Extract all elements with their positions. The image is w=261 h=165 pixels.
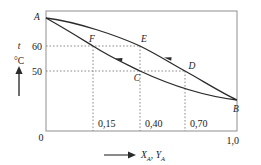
x-axis-caption-sep: , — [151, 150, 153, 160]
x-tick-label-015: 0,15 — [98, 118, 116, 129]
phase-diagram-figure: A B C D E F 60 50 0 0,15 0,40 0,70 1,0 t… — [0, 0, 261, 165]
point-label-E: E — [140, 34, 147, 44]
point-label-B: B — [233, 104, 239, 114]
y-tick-label-50: 50 — [32, 66, 42, 77]
origin-label: 0 — [39, 132, 44, 143]
arrow-right-icon — [104, 151, 136, 158]
x-axis-caption: XA,YA — [140, 150, 165, 162]
y-axis-caption-unit: °C — [14, 56, 24, 66]
y-tick-label-60: 60 — [32, 41, 42, 52]
x-axis-caption-sub-2: A — [160, 155, 165, 162]
x-tick-label-070: 0,70 — [190, 118, 208, 129]
point-label-A: A — [33, 12, 40, 22]
bubble-curve — [46, 18, 237, 100]
x-tick-label-10: 1,0 — [227, 135, 240, 146]
x-tick-label-040: 0,40 — [145, 118, 163, 129]
y-axis-caption-symbol: t — [18, 41, 21, 51]
point-label-C: C — [134, 73, 141, 83]
arrow-up-icon — [15, 66, 22, 96]
point-label-F: F — [88, 34, 95, 44]
point-label-D: D — [188, 61, 196, 71]
dew-curve — [46, 18, 237, 100]
